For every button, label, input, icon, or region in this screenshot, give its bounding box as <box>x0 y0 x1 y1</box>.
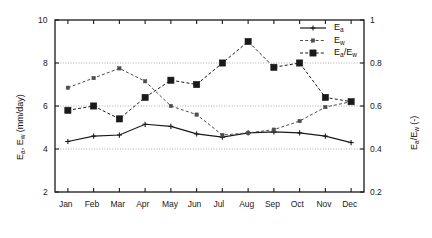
x-axis-tick-mar: Mar <box>110 200 125 209</box>
y-axis-left-tick-10: 10 <box>38 16 47 25</box>
legend <box>300 25 326 56</box>
x-axis-tick-aug: Aug <box>239 200 254 209</box>
y-axis-right-tick-0.6: 0.6 <box>370 102 382 111</box>
y-axis-left-tick-2: 2 <box>43 188 48 197</box>
x-axis-tick-may: May <box>162 200 178 209</box>
y-axis-right-tick-0.8: 0.8 <box>370 59 382 68</box>
y-axis-left-tick-8: 8 <box>43 59 48 68</box>
chart-figure: 2468100.20.40.60.81JanFebMarAprMayJunJul… <box>0 0 432 238</box>
x-axis-tick-feb: Feb <box>85 200 100 209</box>
x-axis-tick-apr: Apr <box>136 200 149 209</box>
legend-label-Ea-Ew: Ea/Ew <box>334 48 357 57</box>
x-axis-tick-oct: Oct <box>291 200 304 209</box>
y-axis-right-tick-1: 1 <box>370 16 375 25</box>
x-axis-tick-jul: Jul <box>213 200 224 209</box>
y-axis-left-title: Ea, Ew (mm/day) <box>16 94 25 160</box>
y-axis-left-tick-6: 6 <box>43 102 48 111</box>
legend-label-Ea: Ea <box>334 23 344 32</box>
x-axis-tick-sep: Sep <box>265 200 280 209</box>
x-axis-tick-jun: Jun <box>188 200 202 209</box>
y-axis-right-tick-0.4: 0.4 <box>370 145 382 154</box>
y-axis-left-tick-4: 4 <box>43 145 48 154</box>
y-axis-right-title: Ea/Ew (-) <box>410 116 419 150</box>
y-axis-right-tick-0.2: 0.2 <box>370 188 382 197</box>
x-axis-tick-jan: Jan <box>59 200 73 209</box>
x-axis-tick-dec: Dec <box>342 200 357 209</box>
x-axis-tick-nov: Nov <box>316 200 331 209</box>
legend-label-Ew: Ew <box>334 36 345 45</box>
